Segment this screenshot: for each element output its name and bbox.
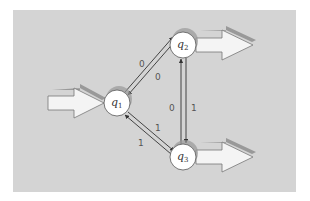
state-q2-sub: 2: [184, 44, 188, 52]
label-q1-q2-lower: 0: [155, 72, 161, 82]
state-q2-name: q: [177, 38, 184, 51]
label-q1-q3-lower: 1: [138, 138, 144, 148]
state-q1-name: q: [111, 96, 118, 109]
label-q2-q3-left: 0: [169, 103, 175, 113]
state-q3-sub: 3: [184, 156, 188, 164]
state-q1-sub: 1: [118, 102, 122, 110]
label-q2-q3-right: 1: [191, 103, 197, 113]
label-q1-q3-upper: 1: [155, 123, 161, 133]
label-q1-q2-upper: 0: [139, 59, 145, 69]
automaton-diagram: 0 0 0 1 1 1 q1 q2 q3: [0, 0, 310, 201]
state-q3-name: q: [177, 150, 184, 163]
